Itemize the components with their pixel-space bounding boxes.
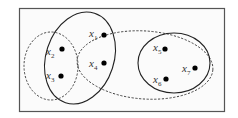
vertex-dot bbox=[101, 32, 106, 37]
hypergraph-diagram: x1 x2 x3 x4 x5 x6 x7 bbox=[0, 0, 238, 118]
vertex-dot bbox=[59, 46, 64, 51]
vertex-dot bbox=[101, 60, 106, 65]
vertex-dot bbox=[162, 46, 167, 51]
vertex-dot bbox=[163, 76, 168, 81]
vertex-dot bbox=[192, 65, 197, 70]
vertex-dot bbox=[58, 73, 63, 78]
